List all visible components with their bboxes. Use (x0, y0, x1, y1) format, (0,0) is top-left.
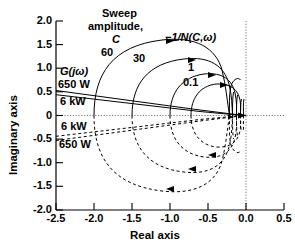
ytick-label-8: -2.0 (14, 204, 52, 215)
describing-function-curves-lower (94, 116, 241, 192)
chart-figure: -2.5 -2.0 -1.5 -1.0 -0.5 0.0 0.5 2.0 1.5… (0, 0, 295, 248)
annotation-curve-60: 60 (101, 47, 113, 58)
xtick-label-5: 0.0 (226, 213, 266, 224)
tail-c0p1-conjugate (241, 116, 242, 133)
annotation-plant-650w-upper: 650 W (58, 79, 90, 90)
arrow-origin-1 (238, 113, 246, 119)
describing-function-curves-upper (94, 39, 241, 115)
ytick-label-7: -1.5 (14, 180, 52, 191)
xtick-label-4: -0.5 (188, 213, 228, 224)
arrow-c0p1-upper (220, 82, 228, 88)
x-axis-ticks (56, 203, 284, 210)
xtick-label-1: -2.0 (74, 213, 114, 224)
xtick-label-6: 0.5 (264, 213, 295, 224)
annotation-curve-30: 30 (133, 53, 145, 64)
annotation-describing-function: −1/N(C,ω) (165, 32, 216, 43)
xtick-label-2: -1.5 (112, 213, 152, 224)
curve-c0p1-conjugate (191, 116, 241, 148)
annotation-curve-0p1: 0.1 (183, 77, 198, 88)
ytick-label-2: 1.0 (14, 62, 52, 73)
ytick-label-4: 0 (14, 110, 52, 121)
tail-outer-conjugate (243, 116, 244, 133)
annotation-plant-650w-lower: 650 W (59, 139, 91, 150)
tail-c30 (233, 92, 234, 116)
tail-outer (243, 99, 244, 116)
y-axis-title: Imaginary axis (8, 95, 20, 175)
annotation-sweep-amplitude-line2: amplitude, (88, 21, 143, 32)
ytick-label-6: -1.0 (14, 157, 52, 168)
ytick-label-0: 2.0 (14, 15, 52, 26)
xtick-label-3: -1.0 (150, 213, 190, 224)
x-axis-title: Real axis (130, 230, 180, 242)
annotation-plant-6kw-upper: 6 kW (60, 96, 86, 107)
ytick-label-1: 1.5 (14, 39, 52, 50)
ytick-label-3: 0.5 (14, 86, 52, 97)
annotation-plant-transfer-function: G(jω) (60, 66, 88, 77)
tail-c0p1 (241, 99, 242, 116)
ytick-label-5: -0.5 (14, 133, 52, 144)
tail-c1 (237, 95, 238, 116)
curve-c60-conjugate (94, 116, 230, 192)
arrow-c1-upper (208, 72, 216, 78)
annotation-sweep-amplitude-symbol: C (112, 34, 120, 45)
annotation-sweep-amplitude-line1: Sweep (102, 8, 137, 19)
curve-c30-conjugate (132, 116, 233, 173)
annotation-curve-1: 1 (188, 62, 194, 73)
y-axis-ticks (56, 21, 63, 210)
arrow-c30-lower (188, 166, 196, 172)
annotation-plant-6kw-lower: 6 kW (61, 121, 87, 132)
